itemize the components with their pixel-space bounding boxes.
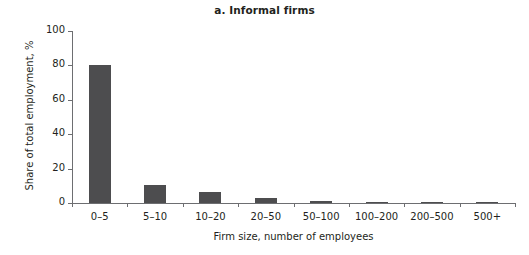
y-tick-mark: [68, 31, 72, 32]
y-tick: 100: [72, 31, 73, 32]
y-tick-label: 60: [52, 93, 65, 104]
x-category-label: 50–100: [294, 211, 349, 222]
x-category-label: 5–10: [127, 211, 182, 222]
x-category-label: 0–5: [72, 211, 127, 222]
y-tick: 40: [72, 134, 73, 135]
y-tick: 20: [72, 169, 73, 170]
y-tick-label: 40: [52, 127, 65, 138]
x-tick-mark: [460, 203, 461, 207]
bar: [310, 201, 332, 203]
y-tick-mark: [68, 169, 72, 170]
bar: [366, 202, 388, 203]
x-tick-mark: [238, 203, 239, 207]
x-tick-mark: [294, 203, 295, 207]
x-tick-mark: [404, 203, 405, 207]
bar: [476, 202, 498, 203]
y-tick-mark: [68, 134, 72, 135]
y-tick-label: 0: [59, 196, 65, 207]
x-tick-mark: [127, 203, 128, 207]
chart-container: a. Informal firms Share of total employm…: [0, 0, 529, 255]
y-axis-line: [72, 31, 73, 203]
x-tick-mark: [349, 203, 350, 207]
y-tick-label: 80: [52, 58, 65, 69]
bar: [421, 202, 443, 203]
x-category-label: 10–20: [183, 211, 238, 222]
bar: [255, 198, 277, 203]
x-category-label: 100–200: [349, 211, 404, 222]
x-axis-title: Firm size, number of employees: [72, 231, 515, 242]
bar: [144, 185, 166, 203]
plot-area: 020406080100 0–55–1010–2020–5050–100100–…: [72, 31, 515, 203]
x-category-label: 200–500: [404, 211, 459, 222]
y-tick-mark: [68, 100, 72, 101]
x-tick-mark: [72, 203, 73, 207]
bar: [199, 192, 221, 203]
chart-title: a. Informal firms: [0, 4, 529, 16]
x-tick-mark: [183, 203, 184, 207]
bar: [89, 65, 111, 203]
y-tick: 80: [72, 65, 73, 66]
y-axis-title: Share of total employment, %: [24, 26, 35, 206]
x-tick-mark: [515, 203, 516, 207]
y-tick: 60: [72, 100, 73, 101]
y-tick-label: 100: [46, 24, 65, 35]
x-category-label: 500+: [460, 211, 515, 222]
y-tick-label: 20: [52, 162, 65, 173]
y-tick-mark: [68, 65, 72, 66]
x-category-label: 20–50: [238, 211, 293, 222]
